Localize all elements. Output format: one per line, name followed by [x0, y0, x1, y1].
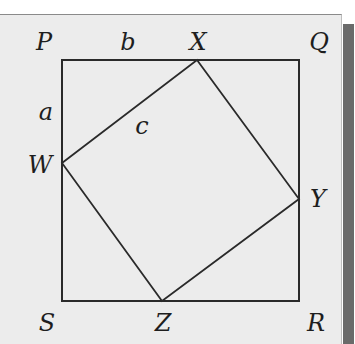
label-Q: Q — [309, 28, 329, 56]
label-S: S — [39, 309, 55, 337]
label-c: c — [135, 112, 148, 140]
label-a: a — [39, 98, 53, 126]
label-X: X — [187, 28, 207, 56]
label-R: R — [306, 309, 325, 337]
inner-square-wxyz — [62, 60, 299, 301]
outer-square-pqrs — [62, 60, 299, 301]
label-W: W — [28, 151, 55, 179]
label-Z: Z — [154, 309, 173, 337]
pythagoras-diagram: P b X Q a c W Y S Z R — [0, 0, 355, 344]
label-b: b — [120, 28, 135, 56]
label-Y: Y — [310, 185, 328, 213]
label-P: P — [35, 28, 53, 56]
